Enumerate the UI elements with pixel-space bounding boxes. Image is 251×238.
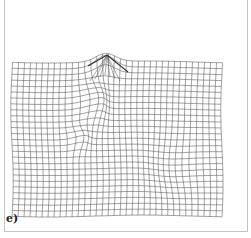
grid-line (13, 156, 223, 159)
grid-line (13, 174, 223, 177)
grid-line (125, 60, 127, 215)
grid-line (13, 162, 223, 165)
grid-line (12, 142, 222, 146)
grid-line (13, 186, 223, 188)
grid-line (13, 203, 223, 205)
grid-line (11, 118, 221, 122)
grid-line (182, 62, 187, 216)
grid-line (11, 130, 221, 134)
grid-line (65, 63, 67, 217)
grid-line (13, 168, 223, 171)
grid-line (11, 92, 221, 98)
grid-line (12, 209, 222, 211)
grid-line (175, 62, 180, 216)
panel-label: e) (6, 212, 18, 225)
grid-line (12, 76, 222, 81)
deformed-grid (0, 0, 251, 238)
grid-line (163, 61, 168, 215)
grid-line (102, 54, 107, 216)
grid-line (11, 104, 221, 111)
grid-line (143, 61, 145, 215)
grid-line (78, 62, 84, 216)
grid-line (13, 197, 223, 199)
grid-line (13, 180, 223, 183)
grid-line (108, 54, 110, 216)
grid-line (11, 111, 221, 117)
grid-line (12, 150, 222, 153)
grid-line (11, 88, 221, 93)
grid-line (11, 83, 221, 87)
grid-line (169, 61, 175, 215)
grid-line (12, 215, 222, 217)
grid-line (12, 65, 222, 75)
grid-line (11, 125, 221, 128)
